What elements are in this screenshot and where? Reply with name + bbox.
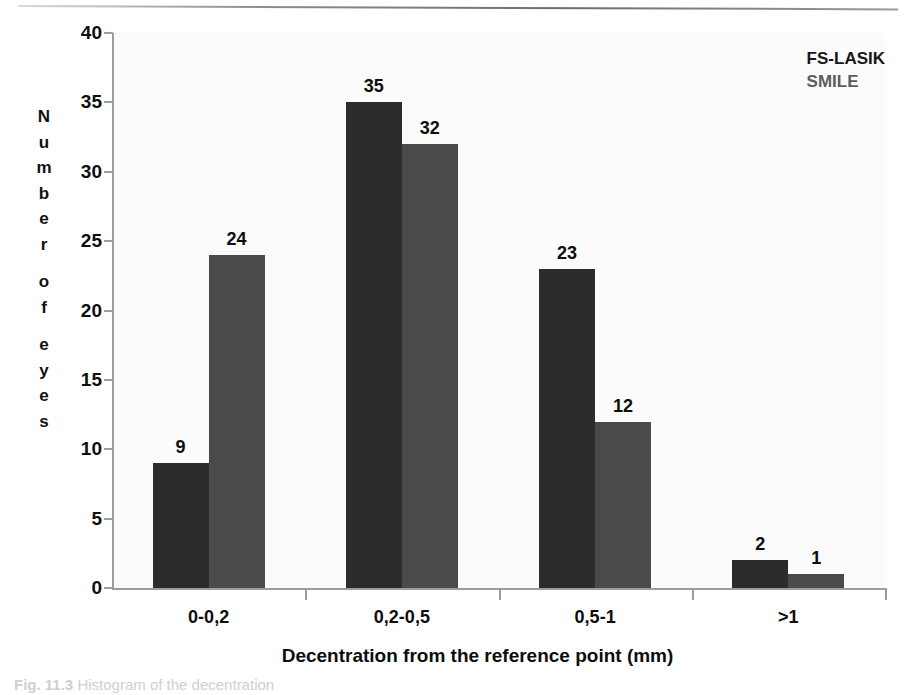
- y-axis-tick-label: 15: [58, 369, 102, 391]
- bar-fs-lasik-2: [539, 269, 595, 588]
- figure-caption-text: Histogram of the decentration: [77, 676, 274, 693]
- top-rule-artifact: [18, 5, 898, 10]
- bar-smile-2: [595, 422, 651, 589]
- figure-caption: Fig. 11.3 Histogram of the decentration: [14, 676, 274, 693]
- bar-smile-1: [402, 144, 458, 588]
- bar-value-label: 9: [176, 437, 186, 458]
- x-axis-tick: [499, 590, 501, 600]
- y-axis-tick-label: 0: [58, 577, 102, 599]
- bar-value-label: 35: [364, 76, 384, 97]
- x-axis-title: Decentration from the reference point (m…: [0, 645, 907, 667]
- legend-entry-smile: SMILE: [807, 70, 885, 93]
- x-axis-tick: [692, 590, 694, 600]
- x-axis-tick: [885, 590, 887, 600]
- y-axis-tick-label: 10: [58, 438, 102, 460]
- figure-bar-chart: Numberofeyes 0510152025303540 9243532231…: [0, 0, 907, 695]
- bar-series-group: [112, 33, 887, 588]
- bar-value-label: 2: [755, 534, 765, 555]
- x-axis-tick: [305, 590, 307, 600]
- bar-value-label: 32: [420, 118, 440, 139]
- bar-fs-lasik-0: [153, 463, 209, 588]
- y-axis-tick-labels: 0510152025303540: [44, 0, 102, 695]
- figure-number: Fig. 11.3: [14, 676, 73, 693]
- y-axis-tick-label: 5: [58, 508, 102, 530]
- bar-fs-lasik-3: [732, 560, 788, 588]
- bar-value-label: 24: [227, 229, 247, 250]
- y-axis-tick-label: 20: [58, 300, 102, 322]
- chart-legend: FS-LASIK SMILE: [807, 47, 885, 93]
- y-axis-tick-label: 30: [58, 161, 102, 183]
- y-axis-tick-label: 35: [58, 91, 102, 113]
- bar-value-label: 1: [811, 548, 821, 569]
- x-axis-category-label: >1: [778, 607, 799, 628]
- bar-value-label: 23: [557, 243, 577, 264]
- x-axis-category-label: 0,5-1: [575, 607, 616, 628]
- bar-value-label: 12: [613, 396, 633, 417]
- y-axis-tick-label: 40: [58, 22, 102, 44]
- x-axis-category-label: 0-0,2: [188, 607, 229, 628]
- x-axis-category-label: 0,2-0,5: [374, 607, 430, 628]
- legend-entry-fs-lasik: FS-LASIK: [807, 47, 885, 70]
- bar-fs-lasik-1: [346, 102, 402, 588]
- bar-smile-0: [209, 255, 265, 588]
- bar-smile-3: [788, 574, 844, 588]
- y-axis-tick-label: 25: [58, 230, 102, 252]
